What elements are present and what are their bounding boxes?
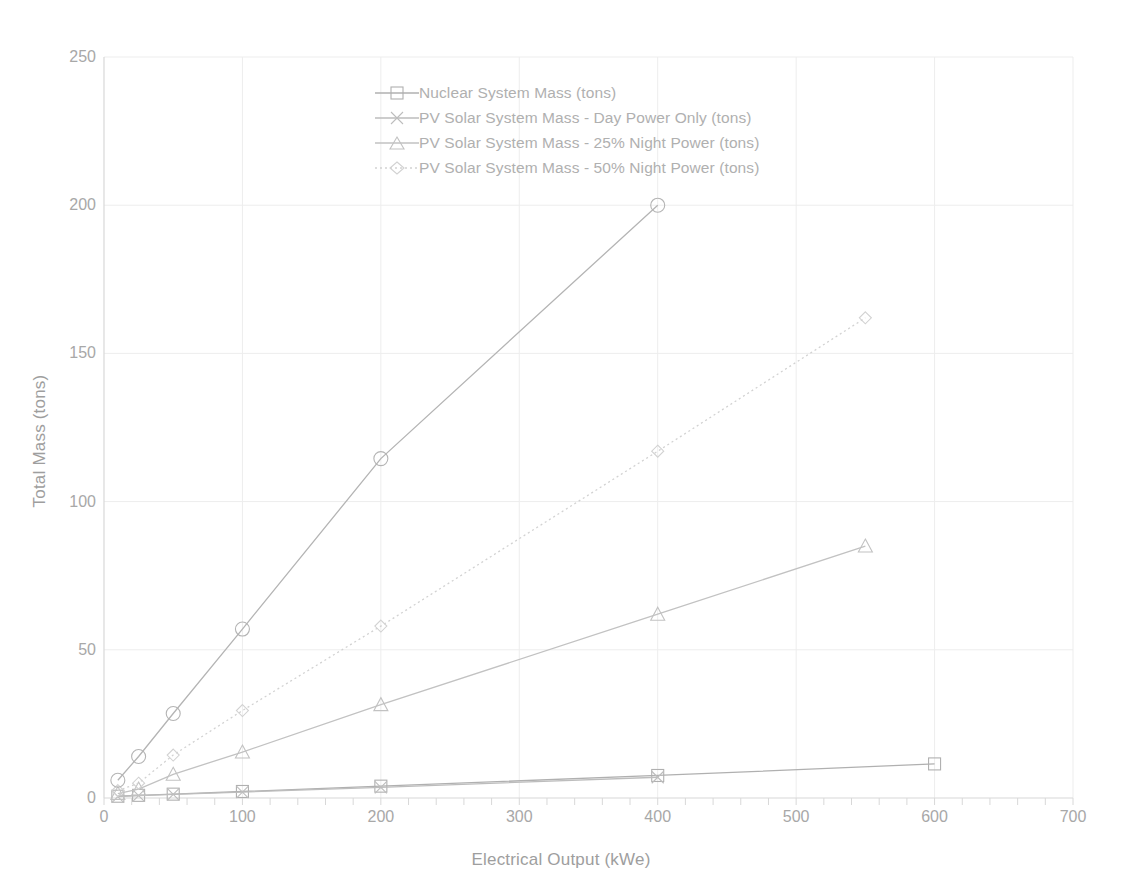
square-marker-icon [375,84,419,102]
y-axis-title: Total Mass (tons) [30,341,50,541]
x-tick-label: 0 [100,808,109,826]
y-tick-label: 150 [69,344,96,362]
chart-container: Total Mass (tons) Electrical Output (kWe… [0,0,1122,882]
series-2 [111,539,873,799]
series-4 [111,198,665,787]
x-tick-label: 500 [783,808,810,826]
x-tick-label: 700 [1060,808,1087,826]
y-tick-label: 100 [69,493,96,511]
legend-item[interactable]: Nuclear System Mass (tons) [375,80,775,105]
data-point-marker [858,539,872,552]
legend-item[interactable]: PV Solar System Mass - 25% Night Power (… [375,130,775,155]
legend-item[interactable]: PV Solar System Mass - 50% Night Power (… [375,155,775,180]
legend-item-label: PV Solar System Mass - 50% Night Power (… [419,159,759,177]
x-tick-label: 100 [229,808,256,826]
diamond-marker-icon [375,159,419,177]
x-marker-icon [375,109,419,127]
y-tick-label: 200 [69,196,96,214]
x-tick-label: 200 [367,808,394,826]
y-tick-label: 0 [87,789,96,807]
x-tick-label: 300 [506,808,533,826]
x-tick-label: 600 [921,808,948,826]
chart-legend: Nuclear System Mass (tons)PV Solar Syste… [375,80,775,180]
x-tick-label: 400 [644,808,671,826]
legend-item[interactable]: PV Solar System Mass - Day Power Only (t… [375,105,775,130]
y-tick-label: 50 [78,641,96,659]
legend-item-label: Nuclear System Mass (tons) [419,84,616,102]
x-axis-title: Electrical Output (kWe) [0,850,1122,870]
legend-item-label: PV Solar System Mass - 25% Night Power (… [419,134,759,152]
series-3 [112,312,872,797]
triangle-marker-icon [375,134,419,152]
y-tick-label: 250 [69,48,96,66]
legend-item-label: PV Solar System Mass - Day Power Only (t… [419,109,752,127]
series-0 [112,758,941,802]
